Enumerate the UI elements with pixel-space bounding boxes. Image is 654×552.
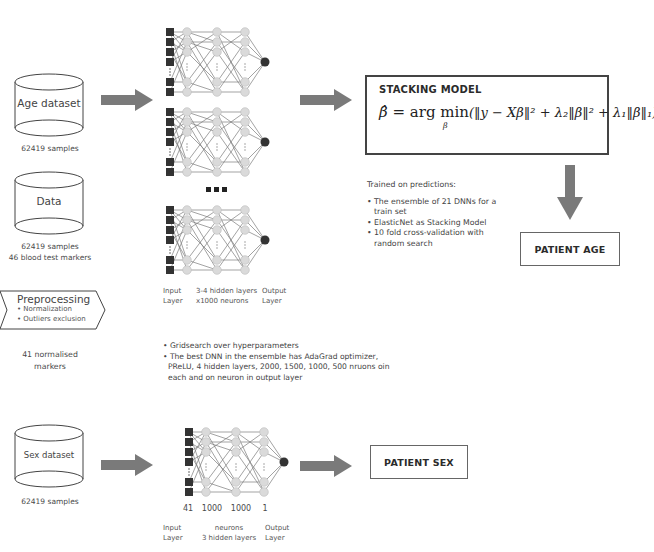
sex-nn-count-h1: 1000 (199, 503, 225, 514)
data-label: Data (15, 195, 83, 207)
preprocessing-item: • Outliers exclusion (17, 315, 102, 325)
note-best-dnn-cont2: each and on neuron in output layer (163, 373, 483, 384)
preprocessing-title: Preprocessing (17, 293, 102, 305)
age-dataset-caption: 62419 samples (0, 143, 100, 154)
trained-item: • ElasticNet as Stacking Model (367, 218, 507, 229)
preprocessing-step: Preprocessing • Normalization • Outliers… (17, 293, 102, 324)
age-dataset-label: Age dataset (15, 97, 83, 109)
note-gridsearch: • Gridsearch over hyperparameters (163, 341, 483, 352)
age-nn-notes: • Gridsearch over hyperparameters • The … (163, 341, 483, 383)
age-nn-input-label: InputLayer (163, 287, 183, 306)
sex-nn-count-h2: 1000 (228, 503, 254, 514)
note-best-dnn: • The best DNN in the ensemble has AdaGr… (163, 352, 483, 363)
sex-nn-input-label: InputLayer (163, 524, 183, 543)
sex-nn-count-input: 41 (178, 503, 198, 514)
normalised-markers-line2: markers (0, 361, 100, 372)
trained-item: • 10 fold cross-validation with random s… (367, 228, 507, 249)
patient-sex-output: PATIENT SEX (370, 445, 468, 479)
trained-on-predictions: Trained on predictions: • The ensemble o… (367, 180, 507, 249)
age-nn-output-label: OutputLayer (262, 287, 286, 306)
data-caption-samples: 62419 samples (0, 241, 100, 252)
age-nn-hidden-label: 3-4 hidden layersx1000 neurons (196, 287, 257, 306)
note-best-dnn-cont1: PReLU, 4 hidden layers, 2000, 1500, 1000… (163, 362, 483, 373)
data-caption-markers: 46 blood test markers (0, 252, 100, 263)
sex-nn-hidden-label: neurons3 hidden layers (199, 524, 259, 543)
sex-dataset-label: Sex dataset (15, 450, 83, 460)
sex-nn-count-output: 1 (258, 503, 272, 514)
trained-heading: Trained on predictions: (367, 180, 507, 191)
preprocessing-item: • Normalization (17, 305, 102, 315)
normalised-markers-line1: 41 normalised (0, 349, 100, 360)
sex-nn-output-label: OutputLayer (265, 524, 289, 543)
trained-item: • The ensemble of 21 DNNs for a train se… (367, 197, 507, 218)
stacking-model-title: STACKING MODEL (379, 84, 595, 95)
stacking-formula: β̂ = arg minβ(‖y − Xβ‖² + λ₂‖β‖² + λ₁‖β‖… (379, 103, 595, 121)
sex-dataset-caption: 62419 samples (0, 496, 100, 507)
patient-age-output: PATIENT AGE (520, 232, 620, 266)
stacking-model-box: STACKING MODEL β̂ = arg minβ(‖y − Xβ‖² +… (365, 75, 609, 155)
